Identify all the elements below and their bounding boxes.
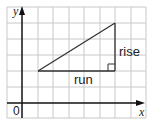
rise-label: rise	[119, 44, 140, 59]
x-axis	[7, 100, 145, 106]
slope-triangle	[38, 23, 115, 71]
origin-label: 0	[13, 104, 20, 118]
grid	[7, 7, 146, 118]
y-axis-label: y	[13, 4, 18, 19]
x-axis-label: x	[139, 105, 144, 120]
hypotenuse	[38, 23, 115, 71]
run-label: run	[74, 72, 93, 87]
right-angle-icon	[108, 64, 115, 71]
